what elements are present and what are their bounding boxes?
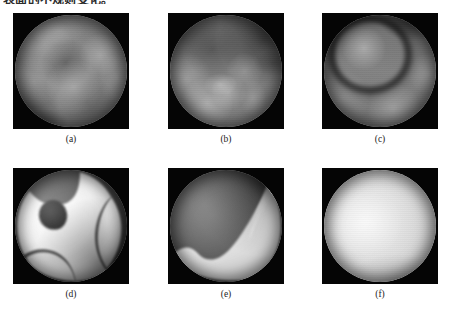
panel-a-disc (15, 15, 127, 127)
panel-d-disc (15, 170, 127, 282)
figure-panel-d: (d) (13, 168, 129, 300)
panel-f-caption: (f) (322, 289, 438, 300)
panel-f-disc (324, 170, 436, 282)
panel-a-frame (13, 13, 129, 129)
figure-panel-c: (c) (322, 13, 438, 145)
figure-panel-a: (a) (13, 13, 129, 145)
panel-e-frame (168, 168, 284, 284)
panel-b-caption: (b) (168, 134, 284, 145)
panel-b-texture-blobs (170, 15, 282, 127)
panel-a-texture-blobs (15, 15, 127, 127)
panel-c-caption: (c) (322, 134, 438, 145)
panel-c-dark-corner (324, 15, 436, 127)
figure-panel-f: (f) (322, 168, 438, 300)
figure-panel-grid: (a) (b) (c) (0, 0, 461, 318)
panel-c-disc (324, 15, 436, 127)
panel-f-highlight (324, 170, 436, 282)
figure-panel-b: (b) (168, 13, 284, 145)
panel-e-disc (170, 170, 282, 282)
panel-e-shading (170, 170, 282, 282)
panel-b-frame (168, 13, 284, 129)
panel-d-caption: (d) (13, 289, 129, 300)
panel-a-caption: (a) (13, 134, 129, 145)
panel-f-frame (322, 168, 438, 284)
panel-d-shading (15, 170, 127, 282)
panel-c-frame (322, 13, 438, 129)
panel-e-caption: (e) (168, 289, 284, 300)
panel-d-frame (13, 168, 129, 284)
figure-panel-e: (e) (168, 168, 284, 300)
panel-b-disc (170, 15, 282, 127)
